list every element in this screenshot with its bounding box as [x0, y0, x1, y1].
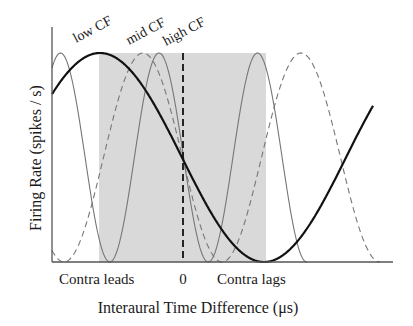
- x-tick-contra-leads: Contra leads: [59, 271, 135, 287]
- x-axis-title: Interaural Time Difference (μs): [98, 299, 299, 317]
- y-axis-title: Firing Rate (spikes / s): [27, 85, 45, 231]
- mid-cf-label: mid CF: [123, 14, 168, 47]
- x-tick-contra-lags: Contra lags: [217, 271, 286, 287]
- low-cf-label: low CF: [70, 13, 114, 46]
- itd-tuning-diagram: low CF mid CF high CF Contra leads 0 Con…: [0, 0, 413, 326]
- x-tick-zero: 0: [179, 271, 187, 287]
- high-cf-label: high CF: [160, 14, 207, 49]
